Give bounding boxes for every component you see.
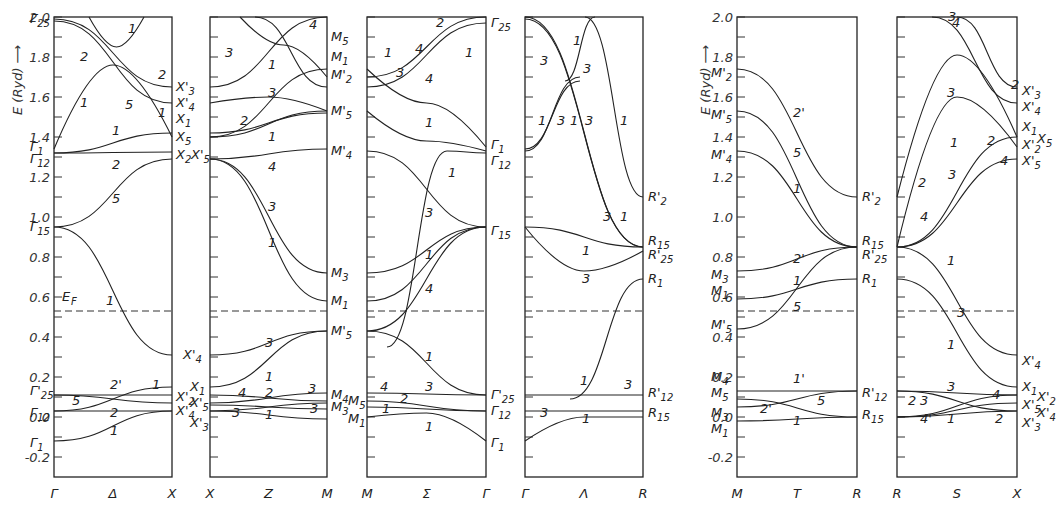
branch-label: 4: [415, 41, 423, 56]
branch-label: 4': [920, 411, 932, 426]
branch-label: 4: [425, 71, 433, 86]
x-tick-label: Γ: [521, 486, 530, 501]
branch-label: 2': [110, 377, 122, 392]
branch-label: 1: [950, 135, 958, 150]
branch-label: 2: [436, 15, 444, 30]
branch-label: 2': [760, 401, 772, 416]
branch-label: 4: [309, 17, 317, 32]
y-tick-label: 1.6: [712, 90, 733, 105]
branch-label: 1: [620, 209, 628, 224]
symmetry-point-label: M'4: [331, 143, 352, 161]
x-tick-label: M: [731, 486, 742, 501]
branch-label: 3: [920, 393, 928, 408]
fermi-label: E: [62, 289, 71, 304]
branch-label: 3: [947, 85, 955, 100]
branch-label: 2: [987, 133, 995, 148]
branch-label: 1: [465, 45, 473, 60]
branch-label: 2: [400, 391, 408, 406]
x-tick-label: T: [793, 486, 802, 501]
symmetry-point-label: M3: [331, 265, 349, 283]
y-tick-label: -0.2: [708, 450, 733, 465]
x-tick-label: X: [1012, 486, 1023, 501]
branch-label: 3: [225, 45, 233, 60]
x-tick-label: X: [205, 486, 216, 501]
branch-label: 3: [624, 377, 632, 392]
y-tick-label: 1.0: [712, 210, 733, 225]
symmetry-point-label: M5: [331, 29, 349, 47]
symmetry-point-label: X1: [1021, 119, 1037, 137]
branch-label: 4: [992, 387, 1000, 402]
y-tick-label: 0.6: [29, 290, 50, 305]
branch-label: 3: [585, 113, 593, 128]
x-tick-label: R: [852, 486, 861, 501]
symmetry-point-label: M1: [331, 293, 349, 311]
branch-label: 4: [380, 379, 388, 394]
y-tick-label: 1.2: [712, 170, 733, 185]
branch-label: 1: [620, 113, 628, 128]
branch-label: 1: [80, 95, 88, 110]
branch-label: 3: [396, 65, 404, 80]
y-tick-label: 1.6: [29, 90, 50, 105]
branch-label: 1: [112, 123, 120, 138]
symmetry-point-label: M'5: [711, 107, 732, 125]
symmetry-point-label: X'4: [182, 347, 202, 365]
symmetry-point-label: X'4: [1021, 99, 1041, 117]
branch-label: 3: [540, 405, 548, 420]
branch-label: 2: [918, 175, 926, 190]
symmetry-point-label: R1: [648, 271, 663, 289]
x-tick-label: M: [321, 486, 332, 501]
branch-label: 5: [72, 393, 80, 408]
x-tick-label: Γ: [50, 486, 59, 501]
branch-label: 1: [382, 401, 390, 416]
band-curve: [210, 159, 327, 301]
branch-label: 1: [570, 113, 578, 128]
branch-label: 5: [793, 299, 801, 314]
x-tick-label: R: [638, 486, 647, 501]
branch-label: 1: [947, 337, 955, 352]
x-tick-label: Δ: [108, 486, 118, 501]
y-tick-label: 0.4: [29, 330, 50, 345]
symmetry-point-label: X1: [1021, 379, 1037, 397]
band-curve: [367, 227, 486, 331]
branch-label: 1: [265, 369, 273, 384]
branch-label: 2: [908, 393, 916, 408]
branch-label: 2: [995, 411, 1003, 426]
branch-label: 3: [268, 85, 276, 100]
y-tick-label: 1.2: [29, 170, 50, 185]
y-tick-label: 1.4: [712, 130, 733, 145]
branch-label: 4: [952, 15, 960, 30]
branch-label: 2: [1011, 77, 1019, 92]
symmetry-point-label: Γ1: [491, 435, 505, 453]
branch-label: 1: [268, 129, 276, 144]
symmetry-point-label: M'5: [331, 103, 352, 121]
branch-label: 1: [110, 423, 118, 438]
branch-label: 4: [920, 209, 928, 224]
x-tick-label: S: [953, 486, 961, 501]
branch-label: 1: [793, 413, 801, 428]
branch-label: 1: [425, 349, 433, 364]
branch-label: 3: [425, 205, 433, 220]
symmetry-point-label: M1: [331, 49, 349, 67]
symmetry-point-label: X1: [175, 111, 191, 129]
branch-label: 1: [580, 373, 588, 388]
branch-label: 1: [793, 273, 801, 288]
band-curve: [897, 247, 1017, 355]
symmetry-point-label: X'4: [1036, 405, 1056, 423]
band-curve: [210, 159, 327, 273]
band-curve: [737, 391, 857, 407]
y-tick-label: 0.8: [29, 250, 50, 265]
band-curve: [932, 17, 1017, 103]
branch-label: 2: [112, 157, 120, 172]
band-curve: [897, 279, 1017, 387]
branch-label: 1: [152, 377, 160, 392]
branch-label: 4: [238, 385, 246, 400]
band-curve: [897, 137, 1017, 247]
branch-label: 1: [448, 165, 456, 180]
x-tick-label: Σ: [422, 486, 431, 501]
branch-label: 2': [793, 251, 805, 266]
symmetry-point-label: M5: [348, 393, 366, 411]
branch-label: 3: [268, 199, 276, 214]
branch-label: 1: [538, 113, 546, 128]
band-curve: [737, 111, 857, 247]
x-tick-label: Γ: [482, 486, 491, 501]
